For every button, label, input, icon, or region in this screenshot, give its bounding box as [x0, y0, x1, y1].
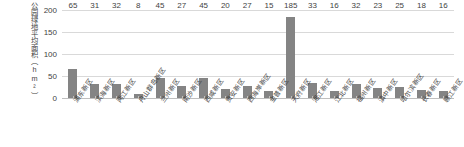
bar-value-label: 32 — [112, 1, 121, 10]
y-axis-tick: 100 — [44, 50, 57, 59]
bar-slot: 65 — [62, 10, 84, 98]
bar-value-label: 16 — [439, 1, 448, 10]
x-axis-tick-slot: 滨海新区 — [84, 99, 106, 147]
bar: 185 — [286, 17, 295, 98]
bar-value-label: 32 — [352, 1, 361, 10]
bar-value-label: 33 — [308, 1, 317, 10]
bar-value-label: 25 — [395, 1, 404, 10]
y-axis-tick: 50 — [48, 72, 57, 81]
bar-value-label: 18 — [417, 1, 426, 10]
x-axis-tick-slot: 赣江新区 — [432, 99, 454, 147]
x-axis-tick-slot: 两江新区 — [106, 99, 128, 147]
bar-value-label: 65 — [68, 1, 77, 10]
x-axis-tick-slot: 南沙新区 — [171, 99, 193, 147]
x-axis-tick-slot: 舟山群岛新区 — [127, 99, 149, 147]
bar-value-label: 15 — [264, 1, 273, 10]
y-axis-tick: 150 — [44, 28, 57, 37]
y-axis-tick-labels: 200150100500 — [36, 10, 60, 98]
x-axis-tick-slot: 福州新区 — [345, 99, 367, 147]
x-axis-tick-labels: 浦东新区滨海新区两江新区舟山群岛新区兰州新区南沙新区西咸新区贵安新区西海岸新区金… — [62, 99, 454, 147]
bar-value-label: 27 — [177, 1, 186, 10]
x-axis-tick-slot: 滇中新区 — [367, 99, 389, 147]
bar-value-label: 16 — [330, 1, 339, 10]
x-axis-tick-slot: 兰州新区 — [149, 99, 171, 147]
x-axis-tick-slot: 金普新区 — [258, 99, 280, 147]
bar-value-label: 31 — [90, 1, 99, 10]
bar-value-label: 45 — [156, 1, 165, 10]
bar-value-label: 185 — [284, 1, 297, 10]
x-axis-tick-slot: 湘江新区 — [302, 99, 324, 147]
x-axis-tick-slot: 哈尔滨新区 — [389, 99, 411, 147]
bar-value-label: 45 — [199, 1, 208, 10]
x-axis-tick-slot: 长春新区 — [411, 99, 433, 147]
x-axis-tick-slot: 贵安新区 — [214, 99, 236, 147]
bar-value-label: 27 — [243, 1, 252, 10]
x-axis-tick-slot: 江北新区 — [323, 99, 345, 147]
x-axis-tick-slot: 西咸新区 — [193, 99, 215, 147]
y-axis-tick: 200 — [44, 6, 57, 15]
bar-value-label: 23 — [373, 1, 382, 10]
bar-value-label: 8 — [136, 1, 140, 10]
y-axis-tick: 0 — [53, 94, 57, 103]
bar-value-label: 20 — [221, 1, 230, 10]
x-axis-tick-slot: 西海岸新区 — [236, 99, 258, 147]
x-axis-tick-slot: 浦东新区 — [62, 99, 84, 147]
x-axis-tick-slot: 天府新区 — [280, 99, 302, 147]
